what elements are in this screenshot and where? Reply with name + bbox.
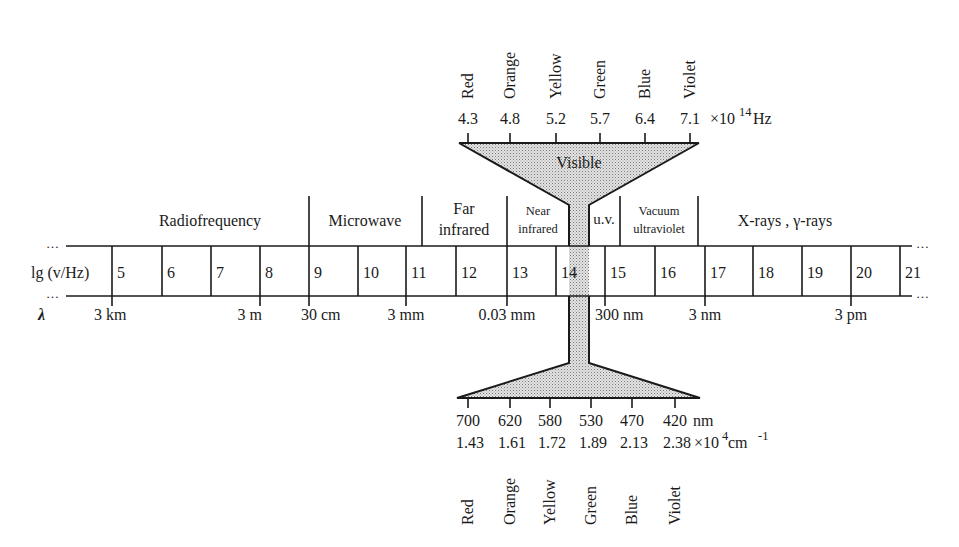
wavenumber-value: 1.61 xyxy=(498,434,526,451)
ellipsis-left-top: … xyxy=(46,236,59,251)
scale-value: 17 xyxy=(710,264,726,281)
region-label-line1: Far xyxy=(453,200,475,217)
region-label-line2: infrared xyxy=(439,221,490,238)
wavelength-label: 300 nm xyxy=(595,306,644,323)
frequency-value: 4.8 xyxy=(500,110,520,127)
scale-value: 15 xyxy=(610,264,626,281)
wavelength-label: 3 pm xyxy=(835,306,868,324)
region-label-line2: infrared xyxy=(518,222,558,236)
color-label-bottom: Blue xyxy=(623,495,640,525)
scale-value: 21 xyxy=(905,264,921,281)
frequency-exponent: 14 xyxy=(739,105,752,119)
scale-value: 9 xyxy=(314,264,322,281)
wavenumber-value: 1.43 xyxy=(456,434,484,451)
wavelength-label: 3 km xyxy=(94,306,127,323)
color-label-top: Yellow xyxy=(547,53,564,99)
region-label: Radiofrequency xyxy=(159,212,261,230)
wavelength-label: 0.03 mm xyxy=(479,306,536,323)
scale-value: 11 xyxy=(411,264,426,281)
wavelength-nm-value: 580 xyxy=(538,412,562,429)
scale-value: 20 xyxy=(856,264,872,281)
ellipsis-left-bottom: … xyxy=(46,286,59,301)
color-label-top: Violet xyxy=(681,59,698,99)
scale-value: 16 xyxy=(660,264,676,281)
frequency-value: 5.7 xyxy=(590,110,610,127)
region-label: X-rays , γ-rays xyxy=(738,212,833,230)
electromagnetic-spectrum-diagram: …………lg (v/Hz)567891011121314151617181920… xyxy=(0,0,959,547)
color-label-top: Blue xyxy=(636,69,653,99)
scale-value: 8 xyxy=(265,264,273,281)
scale-value: 5 xyxy=(117,264,125,281)
scale-value: 12 xyxy=(461,264,477,281)
wavenumber-cm-exponent: -1 xyxy=(758,429,768,443)
wavelength-nm-value: 470 xyxy=(620,412,644,429)
color-label-bottom: Orange xyxy=(501,478,519,525)
ellipsis-right-bottom: … xyxy=(916,286,929,301)
row-label: lg (v/Hz) xyxy=(31,264,89,282)
frequency-hz: Hz xyxy=(753,110,772,127)
scale-value: 13 xyxy=(512,264,528,281)
wavenumber-cm: cm xyxy=(728,434,748,451)
scale-value: 19 xyxy=(807,264,823,281)
region-label-line1: Near xyxy=(526,204,551,218)
scale-value: 18 xyxy=(758,264,774,281)
color-label-bottom: Violet xyxy=(666,485,683,525)
lambda-symbol: λ xyxy=(37,306,45,323)
frequency-value: 4.3 xyxy=(458,110,478,127)
wavelength-label: 3 nm xyxy=(689,306,722,323)
wavenumber-value: 2.13 xyxy=(620,434,648,451)
frequency-value: 5.2 xyxy=(546,110,566,127)
wavelength-nm-value: 420 xyxy=(663,412,687,429)
color-label-top: Orange xyxy=(501,52,519,99)
color-label-bottom: Red xyxy=(459,499,476,525)
color-label-bottom: Green xyxy=(582,486,599,525)
wavelength-nm-unit: nm xyxy=(693,412,714,429)
wavelength-label: 30 cm xyxy=(301,306,341,323)
ellipsis-right-top: … xyxy=(916,236,929,251)
wavenumber-value: 1.89 xyxy=(579,434,607,451)
wavenumber-unit: ×10 xyxy=(694,434,719,451)
region-label: u.v. xyxy=(593,211,615,227)
wavelength-nm-value: 700 xyxy=(456,412,480,429)
wavenumber-value: 1.72 xyxy=(538,434,566,451)
scale-value: 10 xyxy=(363,264,379,281)
wavelength-nm-value: 530 xyxy=(579,412,603,429)
visible-label: Visible xyxy=(556,154,601,171)
scale-value: 7 xyxy=(216,264,224,281)
diagram-content: …………lg (v/Hz)567891011121314151617181920… xyxy=(31,52,929,525)
region-label-line1: Vacuum xyxy=(639,204,680,218)
color-label-top: Green xyxy=(591,60,608,99)
scale-value: 14 xyxy=(561,264,577,281)
color-label-bottom: Yellow xyxy=(541,479,558,525)
region-label-line2: ultraviolet xyxy=(633,222,685,236)
color-label-top: Red xyxy=(459,73,476,99)
region-label: Microwave xyxy=(329,212,402,229)
frequency-value: 6.4 xyxy=(635,110,655,127)
wavelength-label: 3 mm xyxy=(388,306,425,323)
frequency-unit: ×10 xyxy=(710,110,735,127)
wavelength-label: 3 m xyxy=(238,306,263,323)
scale-value: 6 xyxy=(167,264,175,281)
frequency-value: 7.1 xyxy=(680,110,700,127)
wavenumber-value: 2.38 xyxy=(663,434,691,451)
wavelength-nm-value: 620 xyxy=(498,412,522,429)
